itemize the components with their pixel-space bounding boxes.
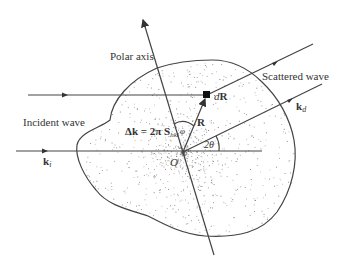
particle-dot xyxy=(212,157,213,158)
particle-dot xyxy=(205,173,206,174)
particle-dot xyxy=(170,206,171,207)
particle-dot xyxy=(215,141,216,142)
particle-dot xyxy=(190,193,191,194)
particle-dot xyxy=(140,122,141,123)
particle-dot xyxy=(206,169,207,170)
particle-dot xyxy=(223,80,224,81)
particle-dot xyxy=(176,212,177,213)
particle-dot xyxy=(111,189,112,190)
particle-dot xyxy=(179,173,180,174)
particle-dot xyxy=(144,175,145,176)
particle-dot xyxy=(196,159,197,160)
particle-dot xyxy=(269,116,270,117)
particle-dot xyxy=(264,216,265,217)
particle-dot xyxy=(258,139,259,140)
particle-dot xyxy=(191,84,192,85)
particle-dot xyxy=(261,149,262,150)
particle-dot xyxy=(123,93,124,94)
particle-dot xyxy=(225,203,226,204)
particle-dot xyxy=(271,105,272,106)
particle-dot xyxy=(187,158,188,159)
particle-dot xyxy=(154,192,155,193)
particle-dot xyxy=(204,171,205,172)
particle-dot xyxy=(177,113,178,114)
particle-dot xyxy=(182,200,183,201)
particle-dot xyxy=(279,158,280,159)
particle-dot xyxy=(162,206,163,207)
particle-dot xyxy=(155,118,156,119)
particle-dot xyxy=(202,138,203,139)
particle-dot xyxy=(168,145,169,146)
particle-dot xyxy=(205,84,206,85)
particle-dot xyxy=(185,200,186,201)
particle-dot xyxy=(198,158,199,159)
particle-dot xyxy=(189,178,190,179)
particle-dot xyxy=(166,164,167,165)
particle-dot xyxy=(130,203,131,204)
particle-dot xyxy=(224,148,225,149)
particle-dot xyxy=(231,160,232,161)
particle-dot xyxy=(148,140,149,141)
polar-axis-label: Polar axis xyxy=(110,50,154,62)
particle-dot xyxy=(178,161,179,162)
particle-dot xyxy=(183,144,184,145)
particle-dot xyxy=(200,186,201,187)
particle-dot xyxy=(109,129,110,130)
particle-dot xyxy=(137,177,138,178)
particle-dot xyxy=(118,122,119,123)
particle-dot xyxy=(238,148,239,149)
particle-dot xyxy=(274,203,275,204)
particle-dot xyxy=(208,130,209,131)
particle-dot xyxy=(197,77,198,78)
particle-dot xyxy=(203,170,204,171)
particle-dot xyxy=(254,204,255,205)
particle-dot xyxy=(198,187,199,188)
particle-dot xyxy=(178,171,179,172)
particle-dot xyxy=(294,153,295,154)
particle-dot xyxy=(131,153,132,154)
particle-dot xyxy=(264,123,265,124)
particle-dot xyxy=(116,147,117,148)
particle-dot xyxy=(122,144,123,145)
particle-dot xyxy=(139,182,140,183)
particle-dot xyxy=(138,157,139,158)
particle-dot xyxy=(284,129,285,130)
particle-dot xyxy=(185,173,186,174)
particle-dot xyxy=(183,162,184,163)
particle-dot xyxy=(181,83,182,84)
particle-dot xyxy=(198,181,199,182)
particle-dot xyxy=(201,169,202,170)
particle-dot xyxy=(176,153,177,154)
particle-dot xyxy=(156,149,157,150)
particle-dot xyxy=(222,169,223,170)
particle-dot xyxy=(154,93,155,94)
particle-dot xyxy=(285,173,286,174)
particle-dot xyxy=(211,182,212,183)
particle-dot xyxy=(262,90,263,91)
particle-dot xyxy=(187,223,188,224)
particle-dot xyxy=(250,169,251,170)
particle-dot xyxy=(130,113,131,114)
particle-dot xyxy=(195,162,196,163)
particle-dot xyxy=(204,204,205,205)
particle-dot xyxy=(216,171,217,172)
particle-dot xyxy=(189,108,190,109)
particle-dot xyxy=(176,149,177,150)
particle-dot xyxy=(90,180,91,181)
particle-dot xyxy=(183,189,184,190)
particle-dot xyxy=(170,146,171,147)
particle-dot xyxy=(186,153,187,154)
particle-dot xyxy=(192,153,193,154)
particle-dot xyxy=(169,153,170,154)
particle-dot xyxy=(158,89,159,90)
particle-dot xyxy=(244,113,245,114)
particle-dot xyxy=(168,153,169,154)
particle-dot xyxy=(127,202,128,203)
particle-dot xyxy=(176,146,177,147)
particle-dot xyxy=(157,159,158,160)
particle-dot xyxy=(205,230,206,231)
particle-dot xyxy=(288,182,289,183)
particle-dot xyxy=(139,205,140,206)
incident-ray-upper-arrow xyxy=(62,93,68,98)
particle-dot xyxy=(233,180,234,181)
